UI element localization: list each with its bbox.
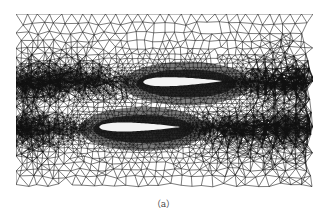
triangular-mesh [16, 14, 313, 191]
mesh-figure: （a） [0, 0, 327, 213]
figure-caption: （a） [0, 197, 327, 210]
